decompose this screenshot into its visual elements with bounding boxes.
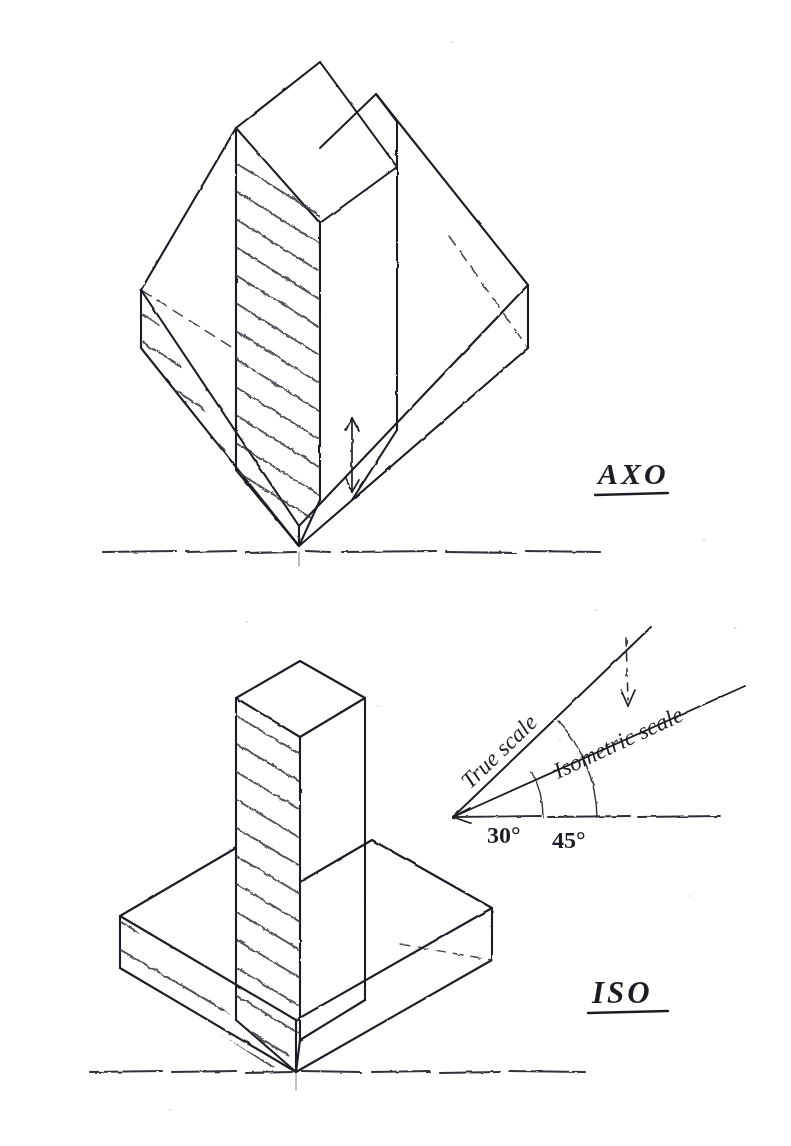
true-scale-ray: [453, 627, 651, 817]
scale-baseline: [453, 816, 720, 817]
axo-right-wing-top: [320, 94, 397, 167]
projection-arrow: [626, 638, 628, 700]
sketch-page: AXO ISO True scale Isometric scale 30° 4…: [0, 0, 791, 1146]
angle-30-label: 30°: [487, 822, 521, 848]
iso-ground-line: [90, 1071, 585, 1073]
isometric-scale-label: Isometric scale: [549, 702, 687, 784]
axo-label-underline: [595, 493, 668, 495]
axo-rib-hatching: [215, 150, 335, 561]
iso-base-hatching: [100, 854, 310, 1116]
axo-base-slab: [141, 94, 528, 546]
axo-label-text: AXO: [596, 457, 669, 490]
axo-thickness-dimension: [346, 418, 359, 492]
axo-ground-line: [103, 551, 600, 553]
handwritten-labels: AXO ISO True scale Isometric scale 30° 4…: [456, 457, 687, 1013]
scale-diagram: [453, 627, 745, 823]
sketch-canvas: AXO ISO True scale Isometric scale 30° 4…: [0, 0, 791, 1146]
axo-drawing: [103, 62, 600, 621]
iso-label-text: ISO: [591, 975, 653, 1010]
axo-rib: [236, 62, 397, 546]
angle-45-label: 45°: [552, 827, 586, 853]
iso-label-underline: [588, 1011, 668, 1013]
true-scale-label: True scale: [456, 709, 542, 793]
axo-hidden-lines: [141, 236, 528, 350]
axo-base-hatching: [120, 272, 320, 621]
